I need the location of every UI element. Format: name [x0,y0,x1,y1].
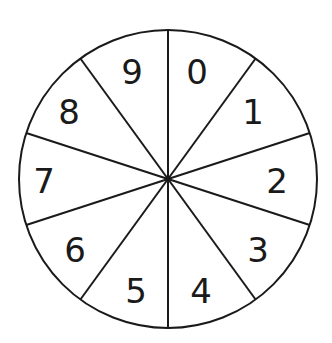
label-8: 8 [58,92,80,132]
label-2: 2 [266,161,288,201]
label-9: 9 [121,52,143,92]
label-3: 3 [247,230,269,270]
label-5: 5 [125,271,147,311]
label-1: 1 [242,92,264,132]
label-0: 0 [186,52,208,92]
label-4: 4 [190,271,212,311]
label-7: 7 [33,161,55,201]
label-6: 6 [64,230,86,270]
spinner-diagram: 0 1 2 3 4 5 6 7 8 9 [0,0,332,343]
